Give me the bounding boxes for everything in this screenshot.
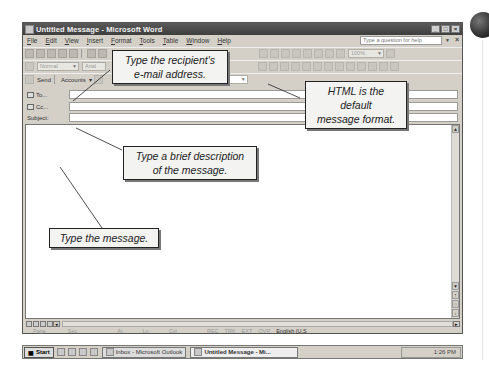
chevron-down-icon: ▼ [377, 50, 382, 57]
help-icon[interactable] [386, 49, 395, 58]
status-section: Sec [68, 328, 77, 334]
cc-button[interactable]: Cc... [23, 104, 67, 110]
minimize-button[interactable]: _ [431, 25, 440, 33]
chevron-down-icon: ▼ [72, 63, 77, 70]
print-icon[interactable] [87, 49, 96, 58]
outlook-quicklaunch-icon[interactable] [79, 348, 87, 356]
rtl-icon[interactable] [313, 62, 322, 71]
tables-borders-icon[interactable] [270, 49, 279, 58]
help-dropdown-icon[interactable]: ▼ [445, 37, 450, 43]
status-ext[interactable]: EXT [242, 328, 253, 334]
vertical-scrollbar[interactable]: ▲ ▼ ↑ ○ ↓ [451, 125, 459, 318]
window-title: Untitled Message - Microsoft Word [36, 25, 163, 34]
send-icon[interactable] [25, 75, 34, 84]
chevron-down-icon[interactable]: ▾ [89, 76, 92, 83]
justify-icon[interactable] [280, 62, 289, 71]
cc-label: Cc... [36, 104, 48, 110]
web-view-icon[interactable] [33, 321, 39, 327]
document-map-icon[interactable] [325, 49, 334, 58]
border-icon[interactable] [368, 62, 377, 71]
menu-file[interactable]: File [27, 37, 38, 44]
to-button[interactable]: To... [23, 92, 67, 98]
style-value: Normal [40, 63, 58, 69]
system-tray: 1:26 PM [401, 347, 461, 358]
callout-subject: Type a brief description of the message. [123, 146, 257, 180]
increase-indent-icon[interactable] [357, 62, 366, 71]
columns-icon[interactable] [303, 49, 312, 58]
scroll-left-icon[interactable]: ◂ [53, 321, 60, 327]
close-button[interactable]: × [451, 25, 460, 33]
send-button[interactable]: Send [37, 77, 51, 83]
drawing-icon[interactable] [314, 49, 323, 58]
taskbar-word-message[interactable]: Untitled Message - Mi... [190, 347, 298, 358]
status-trk[interactable]: TRK [225, 328, 236, 334]
permission-icon[interactable] [58, 49, 67, 58]
menu-window[interactable]: Window [186, 37, 209, 44]
menu-format[interactable]: Format [111, 37, 132, 44]
start-label: Start [36, 349, 50, 355]
horizontal-scrollbar[interactable]: ◂ ▸ [25, 320, 460, 327]
status-ovr[interactable]: OVR [258, 328, 270, 334]
previous-page-icon[interactable]: ↑ [452, 291, 459, 299]
show-hide-icon[interactable] [336, 49, 345, 58]
next-page-icon[interactable]: ↓ [452, 309, 459, 317]
align-right-icon[interactable] [269, 62, 278, 71]
styles-icon[interactable] [25, 62, 34, 71]
print-preview-icon[interactable] [98, 49, 107, 58]
open-icon[interactable] [36, 49, 45, 58]
menu-view[interactable]: View [65, 37, 79, 44]
decorative-circle [470, 12, 489, 38]
media-player-icon[interactable] [90, 348, 98, 356]
callout-line: e-mail address. [119, 67, 221, 81]
highlight-icon[interactable] [379, 62, 388, 71]
status-bar: Page Sec At Ln Col REC TRK EXT OVR Engli… [23, 327, 462, 335]
show-desktop-icon[interactable] [57, 348, 65, 356]
align-center-icon[interactable] [258, 62, 267, 71]
scroll-right-icon[interactable]: ▸ [453, 321, 460, 327]
decrease-indent-icon[interactable] [346, 62, 355, 71]
style-select[interactable]: Normal▼ [37, 62, 79, 71]
accounts-button[interactable]: Accounts [61, 77, 86, 83]
browse-object-icon[interactable]: ○ [452, 300, 459, 308]
scroll-up-icon[interactable]: ▲ [452, 125, 459, 133]
insert-excel-icon[interactable] [292, 49, 301, 58]
horizontal-scroll-track[interactable] [62, 321, 453, 327]
scroll-down-icon[interactable]: ▼ [452, 282, 459, 290]
taskbar-outlook[interactable]: Inbox - Microsoft Outlook [102, 347, 187, 358]
menu-insert[interactable]: Insert [87, 37, 103, 44]
zoom-select[interactable]: 100%▼ [348, 49, 384, 58]
bullets-icon[interactable] [335, 62, 344, 71]
start-button[interactable]: ▦Start [24, 347, 54, 358]
menu-bar: File Edit View Insert Format Tools Table… [23, 35, 462, 46]
email-icon[interactable] [69, 49, 78, 58]
ltr-icon[interactable] [302, 62, 311, 71]
menu-help[interactable]: Help [217, 37, 230, 44]
word-icon [194, 348, 202, 356]
save-icon[interactable] [47, 49, 56, 58]
normal-view-icon[interactable] [26, 321, 32, 327]
line-spacing-icon[interactable] [291, 62, 300, 71]
formatting-toolbar: Normal▼ Arial [23, 60, 462, 72]
document-close-icon[interactable]: × [455, 36, 459, 43]
subject-label: Subject: [23, 115, 67, 121]
help-search-input[interactable]: Type a question for help [360, 36, 442, 45]
address-book-icon [27, 92, 34, 98]
menu-edit[interactable]: Edit [46, 37, 57, 44]
insert-table-icon[interactable] [281, 49, 290, 58]
print-view-icon[interactable] [40, 321, 46, 327]
status-rec[interactable]: REC [207, 328, 219, 334]
hyperlink-icon[interactable] [259, 49, 268, 58]
menu-tools[interactable]: Tools [140, 37, 155, 44]
status-language: English (U.S [276, 328, 307, 334]
chevron-down-icon: ▼ [241, 76, 246, 83]
menu-table[interactable]: Table [163, 37, 179, 44]
numbering-icon[interactable] [324, 62, 333, 71]
font-select[interactable]: Arial [82, 62, 106, 71]
internet-explorer-icon[interactable] [68, 348, 76, 356]
maximize-button[interactable]: □ [441, 25, 450, 33]
new-icon[interactable] [25, 49, 34, 58]
font-value: Arial [85, 63, 96, 69]
font-color-icon[interactable] [390, 62, 399, 71]
attach-icon[interactable] [94, 75, 103, 84]
callout-line: Type a brief description [130, 149, 250, 163]
